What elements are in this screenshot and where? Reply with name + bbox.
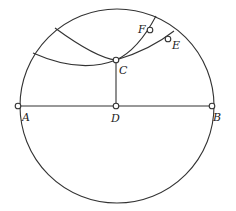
geometry-diagram: A B C D E F: [0, 0, 236, 211]
label-d: D: [110, 112, 120, 125]
point-a: [15, 103, 21, 109]
point-d: [113, 103, 119, 109]
label-f: F: [137, 23, 146, 36]
point-b: [209, 103, 215, 109]
point-e: [165, 36, 171, 42]
label-e: E: [171, 39, 180, 52]
point-f: [147, 27, 153, 33]
arc-through-c-e: [33, 31, 174, 66]
point-c: [113, 57, 119, 63]
label-b: B: [212, 111, 221, 124]
label-c: C: [119, 64, 128, 77]
label-a: A: [21, 111, 30, 124]
